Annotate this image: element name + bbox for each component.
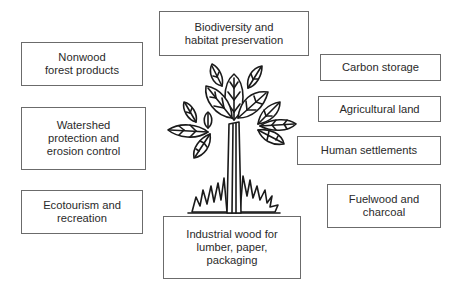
fuelwood-label: Fuelwood and charcoal: [349, 193, 419, 219]
human-settlements-label: Human settlements: [321, 144, 417, 157]
industrial-wood-box: Industrial wood for lumber, paper, packa…: [163, 216, 301, 279]
agricultural-land-label: Agricultural land: [339, 103, 419, 116]
carbon-storage-box: Carbon storage: [320, 54, 441, 81]
ecotourism-label: Ecotourism and recreation: [43, 199, 121, 225]
ecotourism-box: Ecotourism and recreation: [21, 190, 143, 234]
watershed-label: Watershed protection and erosion control: [47, 119, 120, 158]
watershed-box: Watershed protection and erosion control: [21, 107, 146, 170]
human-settlements-box: Human settlements: [297, 136, 441, 165]
carbon-storage-label: Carbon storage: [342, 61, 419, 74]
agricultural-land-box: Agricultural land: [318, 96, 441, 122]
biodiversity-box: Biodiversity and habitat preservation: [159, 11, 309, 56]
nonwood-label: Nonwood forest products: [45, 51, 119, 77]
fuelwood-box: Fuelwood and charcoal: [327, 184, 441, 228]
industrial-wood-label: Industrial wood for lumber, paper, packa…: [186, 228, 277, 267]
biodiversity-label: Biodiversity and habitat preservation: [185, 21, 283, 47]
nonwood-box: Nonwood forest products: [21, 42, 143, 86]
